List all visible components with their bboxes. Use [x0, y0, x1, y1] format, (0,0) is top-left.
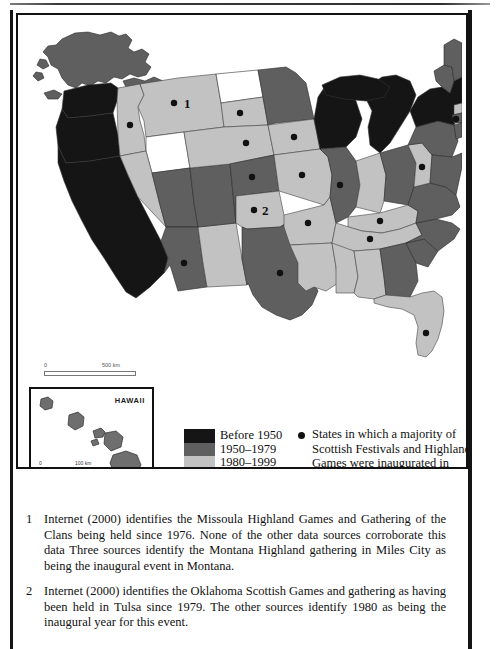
legend-row: 1950–1979	[184, 443, 282, 457]
map-scale-distance: 500 km	[102, 362, 120, 368]
footnote-text: Internet (2000) identifies the Oklahoma …	[44, 584, 446, 631]
dot-ne	[243, 140, 249, 146]
dot-az	[181, 260, 187, 266]
dot-ri	[453, 116, 459, 122]
island-niihau-kauai	[40, 397, 53, 410]
state-nm	[198, 223, 247, 287]
dot-mo	[299, 172, 305, 178]
legend-class-list: Before 1950 1950–1979 1980–1999	[184, 429, 282, 469]
dot-tx	[277, 270, 283, 276]
state-in	[356, 153, 386, 213]
dot-ok	[251, 207, 257, 213]
footnote-item: 2 Internet (2000) identifies the Oklahom…	[26, 584, 446, 631]
legend-swatch-1980-1999	[184, 456, 215, 469]
dot-sd	[237, 110, 243, 116]
island-hawaii	[110, 451, 141, 469]
state-fl	[374, 291, 444, 357]
page-top-rule	[10, 3, 490, 5]
map-annotation-2: 2	[262, 203, 269, 218]
dot-ks	[249, 174, 255, 180]
state-id	[117, 84, 146, 156]
legend-label-1980-1999: 1980–1999	[220, 456, 276, 469]
island-molokai	[93, 428, 105, 438]
dot-tn	[367, 236, 373, 242]
map-scale-rule	[44, 371, 136, 376]
filled-circle-icon	[298, 432, 305, 439]
legend-point-label: States in which a majority of Scottish F…	[312, 427, 468, 469]
legend-swatch-before-1950	[184, 429, 215, 443]
state-wa	[62, 83, 118, 118]
legend-row: 1980–1999	[184, 456, 282, 469]
state-or	[56, 109, 120, 163]
dot-mt	[171, 100, 177, 106]
dot-ia	[291, 134, 297, 140]
legend-label-before-1950: Before 1950	[220, 429, 282, 443]
map-scale-bar: 0 500 km	[44, 362, 136, 376]
dot-il	[337, 182, 343, 188]
legend-row: Before 1950	[184, 429, 282, 443]
island-lanai	[91, 439, 99, 446]
hawaii-scale-zero: 0	[39, 460, 42, 466]
dot-ky	[377, 218, 383, 224]
dot-fl	[423, 330, 429, 336]
map-annotation-1: 1	[184, 96, 191, 111]
state-wy	[146, 132, 190, 173]
legend-swatch-1950-1979	[184, 443, 215, 457]
hawaii-scale-bar: 0 100 km	[39, 460, 103, 469]
island-maui	[104, 431, 123, 451]
legend-label-1950-1979: 1950–1979	[220, 443, 276, 457]
state-co	[190, 164, 236, 227]
state-mn	[258, 67, 314, 125]
island-oahu	[68, 412, 84, 430]
map-frame: .c-dark{fill:#151515;stroke:#333;stroke-…	[16, 13, 468, 469]
footnote-number: 2	[26, 584, 44, 631]
map-scale-zero: 0	[44, 362, 47, 368]
hawaii-label: HAWAII	[115, 396, 145, 405]
hawaii-inset: HAWAII 0 100 km	[29, 387, 154, 469]
hawaii-scale-rule	[39, 468, 103, 469]
page-right-edge	[468, 10, 472, 649]
state-mt	[138, 74, 224, 137]
footnote-item: 1 Internet (2000) identifies the Missoul…	[26, 512, 446, 574]
legend-point-entry: States in which a majority of Scottish F…	[298, 427, 468, 469]
page-left-edge	[10, 10, 13, 649]
dot-ar	[305, 220, 311, 226]
dot-wv	[419, 164, 425, 170]
footnote-number: 1	[26, 512, 44, 574]
dot-id	[127, 122, 133, 128]
footnote-text: Internet (2000) identifies the Missoula …	[44, 512, 446, 574]
hawaii-scale-distance: 100 km	[75, 460, 91, 466]
footnote-list: 1 Internet (2000) identifies the Missoul…	[26, 512, 446, 641]
